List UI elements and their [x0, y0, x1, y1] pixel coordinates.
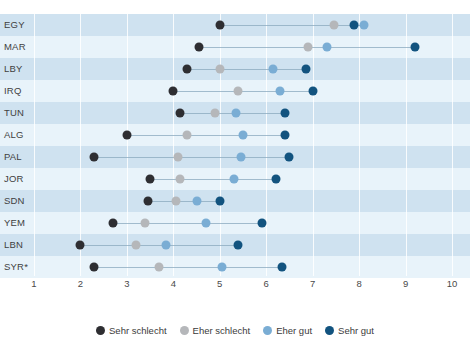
- data-point: [234, 87, 243, 96]
- x-tick-label: 5: [208, 278, 232, 289]
- row-connector: [173, 91, 312, 92]
- data-point: [229, 175, 238, 184]
- data-point: [410, 43, 419, 52]
- x-tick-label: 1: [22, 278, 46, 289]
- data-point: [280, 131, 289, 140]
- data-point: [176, 175, 185, 184]
- data-point: [218, 263, 227, 272]
- gridline: [34, 14, 35, 276]
- data-point: [90, 263, 99, 272]
- data-point: [192, 197, 201, 206]
- chart-title: [34, 0, 434, 5]
- data-point: [176, 109, 185, 118]
- category-label-sdn: SDN: [4, 190, 34, 212]
- gridline: [359, 14, 360, 276]
- data-point: [301, 65, 310, 74]
- data-point: [162, 241, 171, 250]
- x-tick-label: 8: [347, 278, 371, 289]
- data-point: [171, 197, 180, 206]
- legend-label: Eher gut: [276, 325, 312, 336]
- category-label-yem: YEM: [4, 212, 34, 234]
- legend-label: Sehr gut: [338, 325, 374, 336]
- data-point: [280, 109, 289, 118]
- data-point: [271, 175, 280, 184]
- data-point: [90, 153, 99, 162]
- plot-area: EGYMARLBYIRQTUNALGPALJORSDNYEMLBNSYR*: [0, 14, 470, 276]
- category-label-egy: EGY: [4, 14, 34, 36]
- data-point: [329, 21, 338, 30]
- data-point: [146, 175, 155, 184]
- data-point: [211, 109, 220, 118]
- row-connector: [94, 157, 289, 158]
- category-label-pal: PAL: [4, 146, 34, 168]
- data-point: [239, 131, 248, 140]
- legend-item[interactable]: Eher schlecht: [180, 325, 251, 336]
- data-point: [285, 153, 294, 162]
- data-point: [141, 219, 150, 228]
- category-label-mar: MAR: [4, 36, 34, 58]
- row-connector: [127, 135, 285, 136]
- data-point: [155, 263, 164, 272]
- x-tick-label: 3: [115, 278, 139, 289]
- data-point: [215, 21, 224, 30]
- category-labels: EGYMARLBYIRQTUNALGPALJORSDNYEMLBNSYR*: [0, 14, 31, 276]
- row-connector: [148, 201, 220, 202]
- legend-item[interactable]: Eher gut: [263, 325, 312, 336]
- row-connector: [220, 25, 364, 26]
- x-tick-label: 4: [161, 278, 185, 289]
- legend-item[interactable]: Sehr schlecht: [96, 325, 167, 336]
- x-tick-label: 7: [301, 278, 325, 289]
- gridline: [127, 14, 128, 276]
- data-point: [278, 263, 287, 272]
- category-label-tun: TUN: [4, 102, 34, 124]
- chart-legend: Sehr schlechtEher schlechtEher gutSehr g…: [0, 320, 470, 340]
- row-connector: [113, 223, 262, 224]
- legend-swatch-icon: [325, 326, 334, 335]
- row-connector: [187, 69, 305, 70]
- data-point: [269, 65, 278, 74]
- data-point: [276, 87, 285, 96]
- gridline: [266, 14, 267, 276]
- gridline: [220, 14, 221, 276]
- category-label-syr: SYR*: [4, 256, 34, 278]
- data-point: [201, 219, 210, 228]
- data-point: [194, 43, 203, 52]
- legend-swatch-icon: [96, 326, 105, 335]
- legend-label: Sehr schlecht: [109, 325, 167, 336]
- data-point: [215, 197, 224, 206]
- legend-swatch-icon: [180, 326, 189, 335]
- data-point: [232, 109, 241, 118]
- data-point: [215, 65, 224, 74]
- row-connector: [80, 245, 238, 246]
- data-point: [257, 219, 266, 228]
- legend-item[interactable]: Sehr gut: [325, 325, 374, 336]
- data-point: [359, 21, 368, 30]
- x-tick-label: 9: [394, 278, 418, 289]
- gridline: [406, 14, 407, 276]
- data-point: [122, 131, 131, 140]
- data-point: [234, 241, 243, 250]
- data-point: [322, 43, 331, 52]
- gridline: [173, 14, 174, 276]
- gridline: [313, 14, 314, 276]
- category-label-jor: JOR: [4, 168, 34, 190]
- legend-swatch-icon: [263, 326, 272, 335]
- row-connector: [94, 267, 282, 268]
- data-point: [108, 219, 117, 228]
- gridline: [80, 14, 81, 276]
- data-point: [183, 65, 192, 74]
- data-point: [236, 153, 245, 162]
- category-label-alg: ALG: [4, 124, 34, 146]
- row-connector: [150, 179, 275, 180]
- legend-label: Eher schlecht: [193, 325, 251, 336]
- data-point: [304, 43, 313, 52]
- category-label-lby: LBY: [4, 58, 34, 80]
- x-tick-label: 6: [254, 278, 278, 289]
- x-axis: 12345678910: [0, 276, 470, 296]
- data-point: [183, 131, 192, 140]
- data-point: [169, 87, 178, 96]
- x-tick-label: 2: [68, 278, 92, 289]
- category-label-irq: IRQ: [4, 80, 34, 102]
- data-point: [143, 197, 152, 206]
- row-band: [0, 190, 470, 212]
